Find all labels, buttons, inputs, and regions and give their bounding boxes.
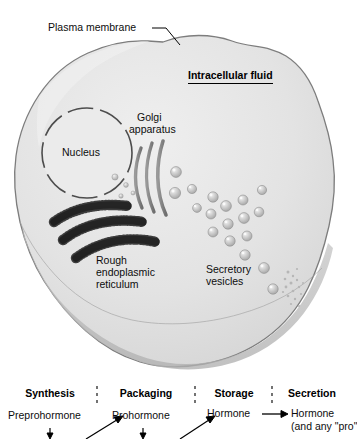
stage-label-secretion: Secretion [278, 388, 346, 400]
plasma-membrane-label: Plasma membrane [48, 22, 136, 34]
flow-step-preprohormone: Preprohormone [8, 410, 81, 422]
stage-label-storage: Storage [202, 388, 266, 400]
cell-body [15, 36, 335, 370]
nucleus-label: Nucleus [62, 147, 100, 159]
arrow-to-hormone [180, 418, 212, 439]
secretory-vesicle [206, 209, 216, 219]
secretory-vesicle [187, 184, 196, 193]
golgi-label-line2: apparatus [129, 124, 176, 136]
rough-er-label-line3: reticulum [96, 279, 139, 291]
golgi-label-line1: Golgi [137, 112, 162, 124]
secretory-vesicle [268, 284, 278, 294]
arrowhead-prohormone-down [140, 433, 146, 439]
stage-label-packaging: Packaging [106, 388, 186, 400]
secretory-vesicle [171, 167, 182, 178]
secretory-vesicle [239, 213, 250, 224]
secretory-vesicle [221, 201, 232, 212]
flow-step-hormone-note: (and any "pro" [291, 421, 357, 433]
secretory-vesicle [208, 227, 218, 237]
secretory-vesicle [254, 207, 264, 217]
rough-er-label-line2: endoplasmic [96, 267, 155, 279]
flow-step-hormone: Hormone [207, 408, 250, 420]
rough-er-label-line1: Rough [96, 255, 127, 267]
intracellular-fluid-label: Intracellular fluid [188, 70, 273, 84]
secretory-vesicle [240, 250, 250, 260]
secretory-vesicle [223, 219, 233, 229]
stage-label-synthesis: Synthesis [12, 388, 88, 400]
secretory-vesicle [259, 263, 270, 274]
flow-step-prohormone: Prohormone [112, 410, 170, 422]
secretory-vesicle [225, 236, 235, 246]
secretory-vesicles-label-line2: vesicles [206, 276, 243, 288]
secretory-vesicle [238, 195, 248, 205]
arrowhead-preprohormone-down [47, 433, 53, 439]
flow-step-hormone-secreted: Hormone [291, 408, 334, 420]
secretory-vesicle [242, 231, 252, 241]
secretory-vesicle [193, 204, 202, 213]
secretory-vesicles-label-line1: Secretory [206, 264, 251, 276]
arrowhead-hormone-to-secretion [281, 411, 288, 418]
secretory-vesicle [208, 192, 218, 202]
secretory-vesicle [257, 185, 266, 194]
secretory-vesicle [169, 187, 180, 198]
